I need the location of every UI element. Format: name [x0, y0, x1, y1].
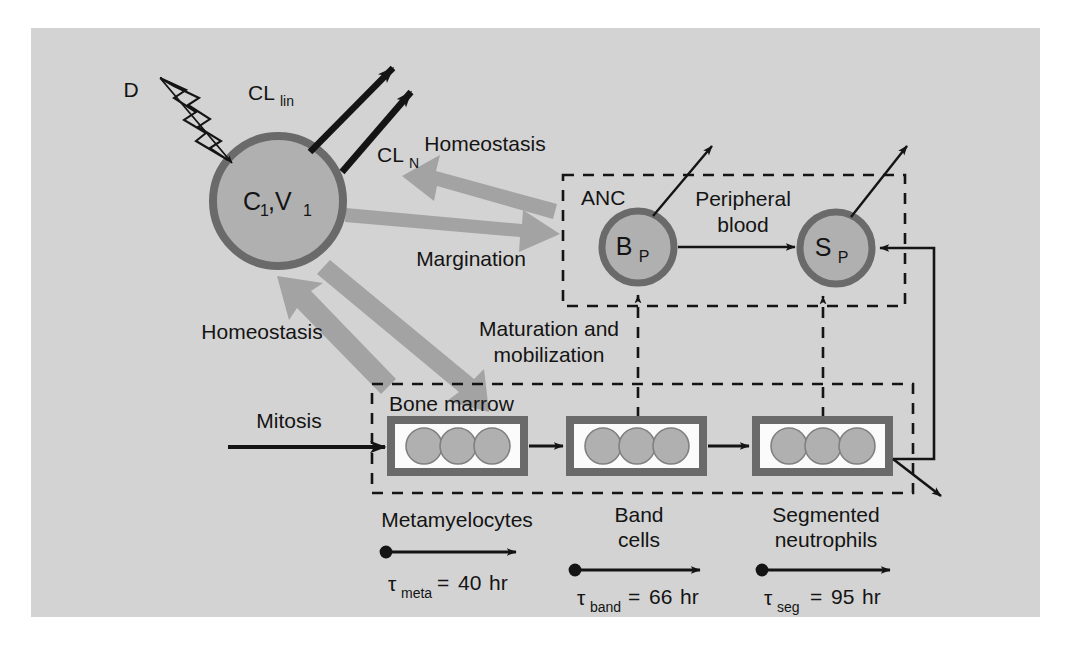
peripheral-blood-title-line1: Peripheral	[695, 187, 791, 210]
tau-band-unit: hr	[680, 585, 699, 608]
cl-lin-sub: lin	[280, 93, 294, 109]
label-maturation-mobilization-line2: mobilization	[494, 343, 605, 366]
tau-band-symbol: τ	[577, 586, 586, 609]
cl-n-base: CL	[377, 143, 404, 166]
banded-pool-node[interactable]	[602, 211, 674, 283]
anc-compartment-tag: ANC	[581, 186, 625, 209]
sp-sub: P	[838, 249, 849, 266]
tau-seg-equals: =	[810, 585, 822, 608]
tau-band-value: 66	[649, 585, 672, 608]
tau-band-equals: =	[628, 585, 640, 608]
metamyelocytes-label: Metamyelocytes	[381, 508, 533, 531]
cell-icon	[440, 428, 476, 464]
tau-meta-sub: meta	[401, 585, 432, 601]
marrow-pool-segmented-neutrophils[interactable]	[756, 420, 889, 472]
mitosis-label: Mitosis	[256, 409, 321, 432]
central-label-c: C	[243, 187, 261, 215]
label-margination: Margination	[416, 247, 526, 270]
marrow-pool-band-cells[interactable]	[570, 420, 703, 472]
tau-meta-unit: hr	[489, 571, 508, 594]
tau-meta-symbol: τ	[388, 572, 397, 595]
band-cells-label-line1: Band	[614, 503, 663, 526]
segmented-pool-node[interactable]	[800, 212, 872, 284]
tau-band-sub: band	[590, 599, 621, 615]
label-homeostasis-blood: Homeostasis	[424, 132, 545, 155]
cell-icon	[653, 428, 689, 464]
central-label-v-sub: 1	[303, 202, 312, 219]
cl-n-sub: N	[409, 155, 419, 171]
bp-base: B	[616, 232, 633, 260]
cell-icon	[805, 428, 841, 464]
marrow-pool-metamyelocytes[interactable]	[391, 420, 524, 472]
tau-seg-unit: hr	[862, 585, 881, 608]
central-label-v: ,V	[268, 187, 292, 215]
band-cells-label-line2: cells	[618, 528, 660, 551]
diagram-canvas: D C 1 ,V 1 CL lin CL N Homeostasis Margi…	[0, 0, 1069, 647]
dose-label: D	[123, 78, 138, 101]
cell-icon	[839, 428, 875, 464]
segmented-neutrophils-label-line2: neutrophils	[775, 528, 878, 551]
cell-icon	[406, 428, 442, 464]
tau-meta-value: 40	[458, 571, 481, 594]
label-maturation-mobilization-line1: Maturation and	[479, 317, 619, 340]
cell-icon	[474, 428, 510, 464]
cell-icon	[771, 428, 807, 464]
label-homeostasis-marrow: Homeostasis	[201, 320, 322, 343]
figure-root: D C 1 ,V 1 CL lin CL N Homeostasis Margi…	[0, 0, 1069, 647]
cl-lin-base: CL	[248, 81, 275, 104]
segmented-neutrophils-label-line1: Segmented	[772, 503, 879, 526]
peripheral-blood-title-line2: blood	[717, 213, 768, 236]
tau-seg-sub: seg	[777, 599, 800, 615]
tau-seg-symbol: τ	[764, 586, 773, 609]
cell-icon	[585, 428, 621, 464]
bp-sub: P	[639, 248, 650, 265]
sp-base: S	[815, 233, 832, 261]
tau-seg-value: 95	[831, 585, 854, 608]
tau-meta-equals: =	[437, 571, 449, 594]
cell-icon	[619, 428, 655, 464]
bone-marrow-compartment-tag: Bone marrow	[389, 392, 515, 415]
